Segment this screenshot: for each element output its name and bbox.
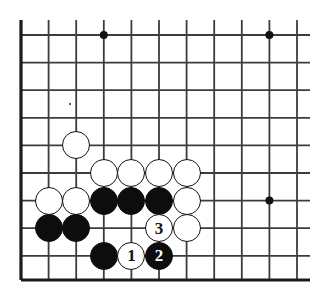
star-point-right <box>265 197 273 205</box>
stone-white[interactable] <box>173 187 201 215</box>
print-speck <box>69 103 71 105</box>
go-board-diagram: 312 <box>0 0 315 294</box>
move-stone-2[interactable]: 2 <box>145 242 173 270</box>
stone-black[interactable] <box>35 214 63 242</box>
star-point-top <box>100 31 108 39</box>
stone-black[interactable] <box>90 242 118 270</box>
stone-black[interactable] <box>145 187 173 215</box>
stone-white[interactable] <box>173 159 201 187</box>
stone-white[interactable] <box>145 159 173 187</box>
move-stone-3[interactable]: 3 <box>145 214 173 242</box>
stone-white[interactable] <box>90 159 118 187</box>
move-number-label: 2 <box>155 247 164 264</box>
stone-black[interactable] <box>117 187 145 215</box>
move-stone-1[interactable]: 1 <box>117 242 145 270</box>
stone-white[interactable] <box>173 214 201 242</box>
star-point-top-right <box>265 31 273 39</box>
move-number-label: 1 <box>127 247 136 264</box>
stone-white[interactable] <box>62 187 90 215</box>
stone-black[interactable] <box>90 187 118 215</box>
move-number-label: 3 <box>155 220 164 237</box>
stone-white[interactable] <box>35 187 63 215</box>
